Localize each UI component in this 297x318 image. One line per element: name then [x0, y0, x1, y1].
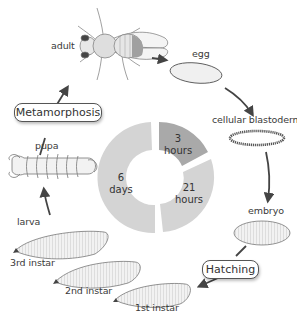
label-adult: adult	[51, 40, 75, 51]
label-2nd-instar: 2nd instar	[65, 285, 112, 296]
label-larva: larva	[17, 216, 40, 227]
embryo-illustration	[234, 221, 290, 245]
donut-label-3-hours: 3 hours	[164, 133, 192, 157]
metamorphosis-box: Metamorphosis	[14, 103, 102, 122]
metamorphosis-label: Metamorphosis	[16, 106, 100, 119]
hatching-label: Hatching	[206, 263, 255, 276]
cellular-blastoderm-illustration	[230, 131, 284, 145]
pupa-illustration	[9, 154, 97, 179]
third-instar-larva-illustration	[15, 231, 108, 259]
donut-label-6-days: 6 days	[106, 172, 136, 196]
adult-fly-illustration	[78, 8, 168, 80]
hatching-box: Hatching	[202, 260, 259, 279]
egg-illustration	[169, 60, 223, 85]
donut-label-21-hours: 21 hours	[173, 182, 205, 206]
label-cellular-blastoderm: cellular blastoderm	[212, 114, 297, 125]
label-pupa: pupa	[35, 140, 59, 151]
label-embryo: embryo	[248, 205, 284, 216]
label-1st-instar: 1st instar	[135, 302, 179, 313]
label-3rd-instar: 3rd instar	[10, 257, 55, 268]
label-egg: egg	[192, 48, 210, 59]
